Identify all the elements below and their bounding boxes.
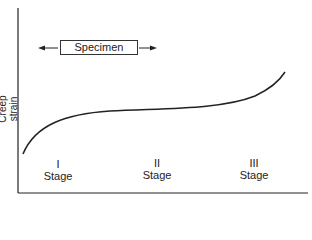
right-arrowhead-icon: [150, 46, 157, 51]
stage-3-numeral: III: [236, 157, 272, 169]
stage-3-text: Stage: [236, 169, 272, 181]
creep-curve: [23, 72, 285, 154]
specimen-box: Specimen: [60, 40, 138, 55]
stage-3-label: III Stage: [236, 157, 272, 181]
left-arrowhead-icon: [38, 46, 45, 51]
y-axis-label: Creep strain: [0, 84, 19, 134]
stage-2-numeral: II: [139, 157, 175, 169]
stage-1-numeral: I: [40, 158, 76, 170]
stage-1-text: Stage: [40, 170, 76, 182]
stage-1-label: I Stage: [40, 158, 76, 182]
stage-2-text: Stage: [139, 169, 175, 181]
stage-2-label: II Stage: [139, 157, 175, 181]
